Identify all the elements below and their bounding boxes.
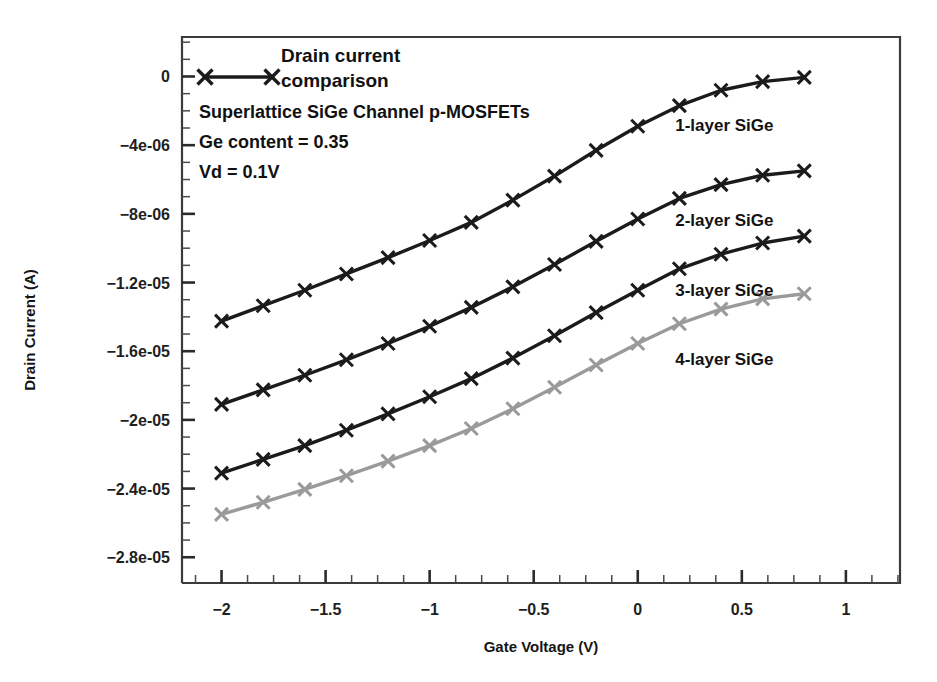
drain-current-chart: 0−4e-06−8e-06−1.2e-05−1.6e-05−2e-05−2.4e… [0,0,937,682]
caption-line-2: Ge content = 0.35 [199,132,349,152]
x-tick-label: −0.5 [518,601,550,618]
x-axis-title: Gate Voltage (V) [484,638,599,655]
x-tick-label: 0.5 [731,601,753,618]
y-axis-title: Drain Current (A) [21,269,38,391]
y-tick-label: −4e-06 [120,137,170,154]
y-tick-label: −2.8e-05 [106,549,170,566]
y-tick-label: 0 [161,68,170,85]
caption-line-3: Vd = 0.1V [199,162,280,182]
series-label-4: 4-layer SiGe [675,350,773,369]
y-tick-label: −2.4e-05 [106,481,170,498]
legend-title-line1: Drain current [281,45,401,66]
y-tick-label: −1.6e-05 [106,343,170,360]
x-tick-label: −1.5 [310,601,342,618]
x-tick-label: −2 [212,601,230,618]
series-label-2: 2-layer SiGe [675,211,773,230]
y-tick-label: −2e-05 [120,412,170,429]
series-label-3: 3-layer SiGe [675,281,773,300]
legend-title-line2: comparison [281,70,389,91]
x-tick-label: 1 [841,601,850,618]
x-tick-label: 0 [633,601,642,618]
chart-figure: 0−4e-06−8e-06−1.2e-05−1.6e-05−2e-05−2.4e… [0,0,937,682]
x-tick-label: −1 [421,601,439,618]
y-tick-label: −1.2e-05 [106,275,170,292]
series-label-1: 1-layer SiGe [675,116,773,135]
y-tick-label: −8e-06 [120,206,170,223]
caption-line-1: Superlattice SiGe Channel p-MOSFETs [199,102,530,122]
